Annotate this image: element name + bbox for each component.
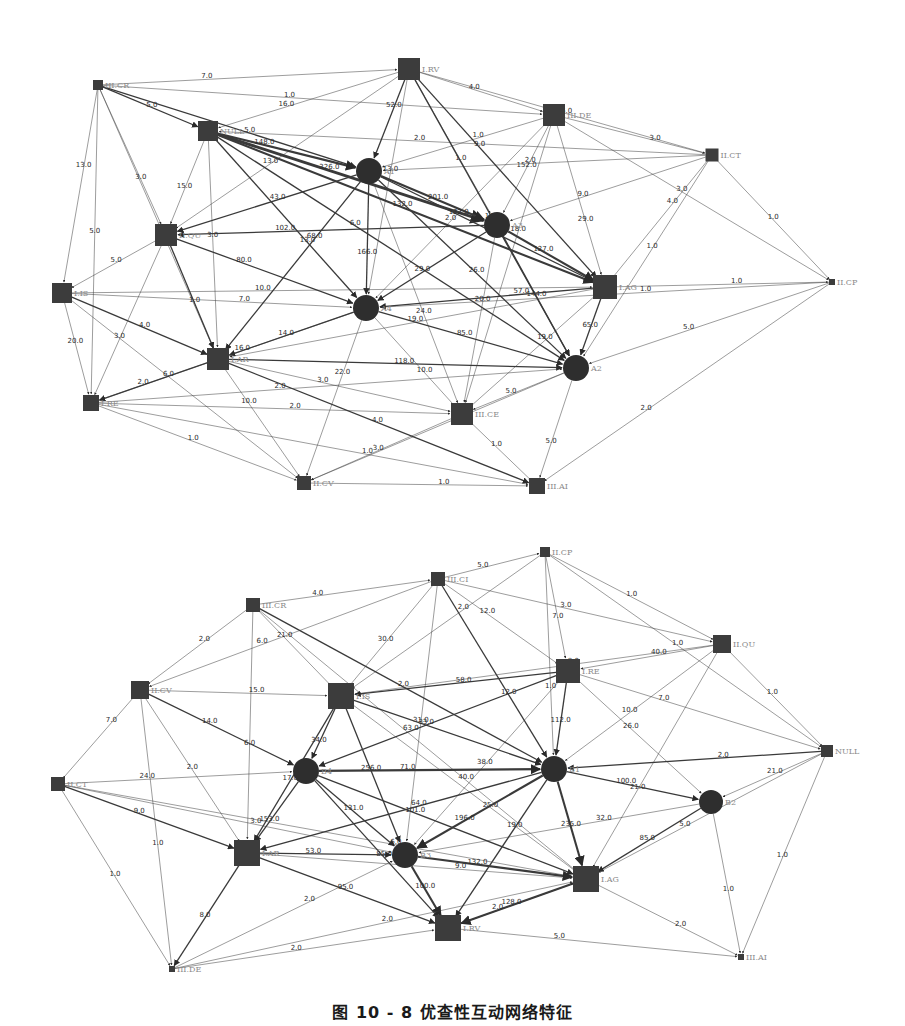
edge-weight-label: 19.0 [537, 333, 553, 341]
edge-weight-label: 1.0 [473, 131, 484, 139]
edge-weight-label: 21.0 [277, 631, 293, 639]
node-B3[interactable]: B3 [392, 842, 431, 868]
node-II.QU[interactable]: II.QU [713, 635, 755, 653]
node-label: I.IS [356, 692, 370, 701]
edge-weight-label: 19.0 [507, 821, 523, 829]
circle-node-icon [484, 212, 510, 238]
edge-weight-label: 7.0 [239, 295, 250, 303]
edge-I.RV-A1 [374, 79, 405, 158]
edge-weight-label: 1.0 [189, 296, 200, 304]
node-III.CR[interactable]: III.CR [246, 598, 287, 612]
edge-I.IS-A4 [72, 293, 352, 307]
node-I.AR[interactable]: I.AR [234, 840, 280, 866]
edge-weight-label: 9.0 [577, 190, 588, 198]
square-node-icon [83, 395, 99, 411]
edge-B4-I.AR [255, 782, 298, 842]
edge-weight-label: 2.0 [275, 382, 286, 390]
network-bottom: 4.05.01.07.01.02.01.030.012.012.03.031.0… [51, 547, 860, 974]
edge-weight-label: 1.0 [109, 870, 120, 878]
node-I.IS[interactable]: I.IS [52, 283, 88, 303]
node-II.CP[interactable]: II.CP [829, 278, 858, 287]
square-node-icon [431, 572, 445, 586]
edge-weight-label: 7.0 [552, 612, 563, 620]
node-A2[interactable]: A2 [563, 355, 602, 381]
edge-weight-label: 57.0 [514, 287, 530, 295]
node-NULL[interactable]: NULL [821, 745, 860, 757]
edge-weight-label: 64.0 [411, 799, 427, 807]
edge-weight-label: 52.0 [386, 101, 402, 109]
square-node-icon [713, 635, 731, 653]
circle-node-icon [563, 355, 589, 381]
node-B4[interactable]: B4 [293, 758, 332, 784]
node-label: I.AR [262, 849, 280, 858]
edge-II.QU-I.IS [355, 645, 713, 694]
node-II.CV[interactable]: II.CV [297, 476, 334, 490]
square-node-icon [556, 659, 580, 683]
edge-II.CV-B4 [148, 694, 293, 765]
edge-B3-I.AG [418, 857, 572, 877]
node-III.AI[interactable]: III.AI [738, 953, 767, 962]
edge-II.CT-I.AR [65, 786, 234, 848]
edge-weight-label: 2.0 [414, 134, 425, 142]
edge-III.CI-II.CP [445, 553, 539, 577]
node-I.AG[interactable]: I.AG [573, 866, 619, 892]
node-label: I.RV [422, 65, 439, 74]
node-III.CI[interactable]: III.CI [431, 572, 468, 586]
edge-II.QU-I.RE [95, 245, 162, 395]
edge-layer: 7.01.05.05.03.013.05.01.016.052.04.06.01… [64, 70, 830, 486]
edge-weight-label: 2.0 [187, 763, 198, 771]
node-II.CT[interactable]: II.CT [51, 777, 88, 791]
edge-III.CR-I.RE [91, 90, 98, 394]
edge-III.DE-I.RV [175, 930, 434, 969]
node-III.CE[interactable]: III.CE [451, 403, 499, 425]
node-B1[interactable]: B1 [541, 756, 580, 782]
edge-weight-label: 32.0 [596, 814, 612, 822]
node-I.IS[interactable]: I.IS [328, 683, 370, 709]
edge-weight-label: 10.0 [622, 706, 638, 714]
edge-weight-label: 118.0 [394, 357, 414, 365]
node-II.QU[interactable]: II.QU [155, 224, 201, 246]
node-I.RE[interactable]: I.RE [556, 659, 600, 683]
edge-weight-label: 58.0 [456, 676, 472, 684]
edge-weight-label: 3.0 [114, 332, 125, 340]
node-III.DE[interactable]: III.DE [169, 965, 201, 974]
edge-weight-label: 153.0 [259, 815, 279, 823]
edge-weight-label: 132.0 [467, 858, 487, 866]
edge-weight-label: 24.0 [416, 307, 432, 315]
edge-weight-label: 1.0 [647, 242, 658, 250]
node-A4[interactable]: A4 [353, 295, 392, 321]
edge-III.CR-I.RV [103, 70, 397, 85]
node-A3[interactable]: A3 [484, 212, 523, 238]
node-III.AI[interactable]: III.AI [529, 478, 568, 494]
edge-weight-label: 2.0 [718, 751, 729, 759]
node-III.CR[interactable]: III.CR [93, 80, 130, 90]
edge-I.AG-III.CE [471, 295, 596, 406]
edge-NULL-B1 [568, 751, 821, 768]
node-II.CT[interactable]: II.CT [706, 149, 742, 162]
edge-weight-label: 21.0 [767, 767, 783, 775]
edge-III.CI-I.RE [444, 583, 558, 663]
edge-weight-label: 3.0 [560, 601, 571, 609]
edge-NULL-B2 [723, 753, 822, 796]
edge-III.DE-I.AG [175, 882, 572, 968]
edge-weight-label: 132.0 [393, 200, 413, 208]
edge-A1-A4 [366, 184, 368, 294]
square-node-icon [207, 348, 229, 370]
edge-weight-label: 2.0 [675, 920, 686, 928]
node-II.CP[interactable]: II.CP [540, 547, 573, 557]
edge-A2-III.CE [473, 373, 564, 410]
edge-weight-label: 1.0 [188, 434, 199, 442]
node-label: II.QU [179, 231, 201, 240]
node-label: I.AG [619, 283, 637, 292]
square-node-icon [738, 954, 744, 960]
node-I.AG[interactable]: I.AG [593, 275, 637, 299]
edge-weight-label: 14.0 [278, 329, 294, 337]
node-I.RE[interactable]: I.RE [83, 395, 119, 411]
square-node-icon [234, 840, 260, 866]
node-label: III.CI [447, 575, 468, 584]
edge-B1-B3 [417, 775, 543, 848]
edge-weight-label: 10.0 [255, 284, 271, 292]
square-node-icon [198, 121, 218, 141]
node-label: A4 [380, 304, 392, 313]
edge-III.DE-II.CP [563, 121, 828, 280]
